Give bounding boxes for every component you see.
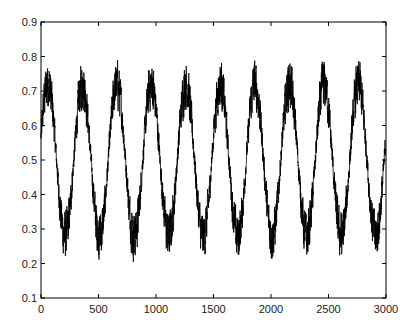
x-tick-label: 500 — [89, 303, 107, 315]
x-tick-label: 1000 — [144, 303, 168, 315]
x-tick-label: 2000 — [259, 303, 283, 315]
x-tick-label: 2500 — [316, 303, 340, 315]
y-tick-label: 0.5 — [22, 154, 37, 166]
signal-line — [41, 60, 386, 262]
signal-polyline — [41, 60, 386, 262]
y-axis: 0.10.20.30.40.50.60.70.80.9 — [22, 16, 386, 304]
y-tick-label: 0.8 — [22, 51, 37, 63]
axes-frame — [41, 22, 386, 298]
y-tick-label: 0.3 — [22, 223, 37, 235]
line-chart: 050010001500200025003000 0.10.20.30.40.5… — [0, 0, 418, 332]
x-tick-label: 0 — [38, 303, 44, 315]
y-tick-label: 0.1 — [22, 292, 37, 304]
x-tick-label: 3000 — [374, 303, 398, 315]
x-tick-label: 1500 — [201, 303, 225, 315]
y-tick-label: 0.7 — [22, 85, 37, 97]
y-tick-label: 0.4 — [22, 189, 37, 201]
y-tick-label: 0.2 — [22, 258, 37, 270]
y-tick-label: 0.9 — [22, 16, 37, 28]
y-tick-label: 0.6 — [22, 120, 37, 132]
